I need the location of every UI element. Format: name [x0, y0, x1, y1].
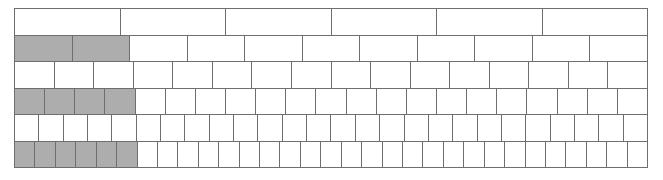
fraction-cell: [566, 142, 586, 168]
fraction-cell: [450, 62, 490, 88]
fraction-cell-shaded: [35, 142, 55, 168]
fraction-cell: [112, 115, 136, 141]
fraction-row: [15, 9, 647, 36]
fraction-row: [15, 89, 647, 116]
fraction-cell: [599, 115, 623, 141]
fraction-cell: [234, 115, 258, 141]
fraction-cell: [405, 115, 429, 141]
fraction-cell: [628, 142, 647, 168]
fraction-cell: [342, 142, 362, 168]
fraction-cell: [437, 9, 543, 35]
fraction-cell: [138, 142, 158, 168]
fraction-cell: [362, 142, 382, 168]
fraction-cell: [130, 36, 188, 62]
fraction-cell: [158, 142, 178, 168]
fraction-cell: [505, 142, 525, 168]
fraction-cell: [55, 62, 95, 88]
fraction-cell: [301, 142, 321, 168]
fraction-cell: [411, 62, 451, 88]
fraction-cell: [543, 9, 648, 35]
fraction-cell: [210, 115, 234, 141]
fraction-cell: [213, 62, 253, 88]
fraction-cell: [134, 62, 174, 88]
fraction-cell: [383, 142, 403, 168]
fraction-cell: [137, 115, 161, 141]
fraction-cell: [590, 36, 647, 62]
fraction-cell: [418, 36, 476, 62]
fraction-cell: [485, 142, 505, 168]
fraction-cell: [356, 115, 380, 141]
fraction-cell: [444, 142, 464, 168]
fraction-cell: [607, 142, 627, 168]
fraction-cell: [226, 89, 256, 115]
fraction-cell: [39, 115, 63, 141]
fraction-cell: [558, 89, 588, 115]
fraction-cell-shaded: [105, 89, 135, 115]
fraction-cell: [527, 89, 557, 115]
fraction-cell-shaded: [73, 36, 131, 62]
fraction-cell-shaded: [15, 89, 45, 115]
fraction-cell: [403, 142, 423, 168]
fraction-cell: [161, 115, 185, 141]
fraction-cell: [546, 142, 566, 168]
fraction-cell: [377, 89, 407, 115]
fraction-cell: [199, 142, 219, 168]
fraction-cell: [331, 115, 355, 141]
fraction-cell: [178, 142, 198, 168]
fraction-cell: [316, 89, 346, 115]
fraction-cell: [478, 115, 502, 141]
fraction-row: [15, 36, 647, 63]
fraction-wall: [14, 8, 648, 168]
fraction-cell: [307, 115, 331, 141]
fraction-cell: [292, 62, 332, 88]
fraction-cell: [575, 115, 599, 141]
fraction-cell: [88, 115, 112, 141]
fraction-cell: [226, 9, 332, 35]
fraction-cell: [423, 142, 443, 168]
fraction-cell: [551, 115, 575, 141]
fraction-cell: [526, 142, 546, 168]
fraction-cell: [497, 89, 527, 115]
fraction-cell: [529, 62, 569, 88]
fraction-cell: [618, 89, 647, 115]
fraction-cell: [526, 115, 550, 141]
fraction-cell: [188, 36, 246, 62]
fraction-cell: [15, 62, 55, 88]
fraction-row: [15, 115, 647, 142]
fraction-cell-shaded: [75, 89, 105, 115]
fraction-cell: [280, 142, 300, 168]
fraction-cell: [240, 142, 260, 168]
fraction-cell: [332, 62, 372, 88]
fraction-cell-shaded: [15, 36, 73, 62]
fraction-cell: [196, 89, 226, 115]
fraction-cell: [437, 89, 467, 115]
fraction-cell: [256, 89, 286, 115]
fraction-cell: [166, 89, 196, 115]
fraction-cell: [219, 142, 239, 168]
fraction-cell: [467, 89, 497, 115]
fraction-cell: [258, 115, 282, 141]
fraction-cell: [453, 115, 477, 141]
fraction-row: [15, 142, 647, 168]
fraction-cell: [533, 36, 591, 62]
fraction-cell: [332, 9, 438, 35]
fraction-cell-shaded: [45, 89, 75, 115]
fraction-cell: [283, 115, 307, 141]
fraction-cell: [429, 115, 453, 141]
fraction-cell: [15, 115, 39, 141]
fraction-cell: [587, 142, 607, 168]
fraction-cell: [371, 62, 411, 88]
fraction-cell: [475, 36, 533, 62]
fraction-row: [15, 62, 647, 89]
fraction-cell: [502, 115, 526, 141]
fraction-cell: [173, 62, 213, 88]
fraction-cell: [136, 89, 166, 115]
fraction-cell: [490, 62, 530, 88]
fraction-cell: [286, 89, 316, 115]
fraction-cell-shaded: [117, 142, 137, 168]
fraction-cell: [624, 115, 647, 141]
fraction-cell-shaded: [97, 142, 117, 168]
fraction-cell: [260, 142, 280, 168]
fraction-cell: [347, 89, 377, 115]
fraction-cell: [185, 115, 209, 141]
